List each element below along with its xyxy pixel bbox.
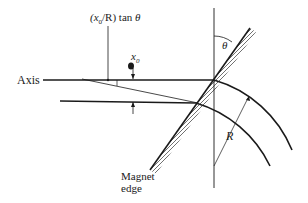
magnet-edge-focusing-diagram: (x0/R) tan θ x0 Axis θ R Magnet edge	[0, 0, 308, 203]
offset-trajectory-line	[60, 101, 196, 103]
formula-middle: /R) tan	[102, 11, 135, 23]
magnet-edge-label-line2: edge	[121, 182, 155, 194]
theta-label: θ	[222, 40, 227, 51]
formula-prefix: (x	[90, 11, 99, 23]
focusing-ray	[82, 79, 198, 103]
formula-theta: θ	[135, 11, 140, 23]
formula-leader-dot	[107, 79, 109, 81]
displacement-formula-label: (x0/R) tan θ	[90, 12, 140, 26]
x0-arrow-top-head	[131, 74, 135, 79]
magnet-edge-label: Magnet edge	[121, 170, 155, 194]
magnet-edge-hatching	[150, 28, 256, 174]
magnet-edge-line	[150, 28, 250, 170]
magnet-edge-label-line1: Magnet	[121, 170, 155, 182]
x0-label: x0	[131, 51, 139, 65]
radius-label: R	[226, 130, 233, 142]
axis-label: Axis	[17, 74, 40, 86]
x0-subscript: 0	[136, 57, 140, 65]
